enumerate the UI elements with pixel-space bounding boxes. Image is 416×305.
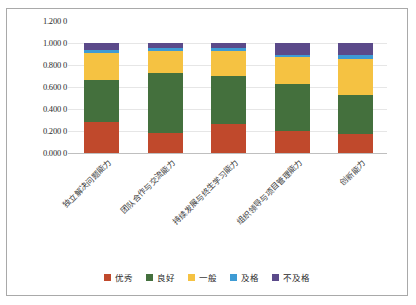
bar-segment-优秀[interactable] <box>275 131 310 153</box>
axis-baseline <box>68 153 387 154</box>
x-axis-tick-label: 组织领导与项目管理能力 <box>234 157 304 227</box>
legend-label: 优秀 <box>115 271 133 283</box>
legend-swatch-icon <box>272 274 279 281</box>
legend-item-2[interactable]: 良好 <box>146 271 175 283</box>
x-axis-tick-label: 持续发展与终生学习能力 <box>170 157 240 227</box>
bar-segment-不及格[interactable] <box>211 43 246 48</box>
y-axis-tick-label: 0.400 0 <box>13 104 67 114</box>
bar-2[interactable] <box>148 43 183 153</box>
y-axis-tick-label: 0.000 0 <box>13 148 67 158</box>
y-axis-tick-label: 1.200 0 <box>13 16 67 26</box>
y-axis-tick-label: 0.800 0 <box>13 60 67 70</box>
bar-5[interactable] <box>338 43 373 153</box>
legend-item-4[interactable]: 及格 <box>230 271 259 283</box>
bar-segment-及格[interactable] <box>275 55 310 57</box>
bar-segment-一般[interactable] <box>338 59 373 95</box>
legend-item-5[interactable]: 不及格 <box>272 271 310 283</box>
legend-swatch-icon <box>104 274 111 281</box>
bar-segment-一般[interactable] <box>148 51 183 72</box>
bar-segment-良好[interactable] <box>275 84 310 131</box>
chart-container: 0.000 00.200 00.400 00.600 00.800 01.000… <box>6 8 408 296</box>
bar-segment-及格[interactable] <box>84 50 119 53</box>
bar-segment-一般[interactable] <box>84 53 119 80</box>
bar-1[interactable] <box>84 43 119 153</box>
bar-segment-优秀[interactable] <box>211 124 246 153</box>
bar-segment-优秀[interactable] <box>148 133 183 153</box>
bar-segment-一般[interactable] <box>211 51 246 76</box>
legend-item-1[interactable]: 优秀 <box>104 271 133 283</box>
bar-segment-及格[interactable] <box>211 48 246 51</box>
x-axis-tick-label: 团队合作与交流能力 <box>118 157 177 216</box>
y-axis-tick-label: 0.200 0 <box>13 126 67 136</box>
bar-segment-及格[interactable] <box>148 48 183 51</box>
bar-segment-及格[interactable] <box>338 55 373 59</box>
y-axis-tick-label: 0.600 0 <box>13 82 67 92</box>
legend-swatch-icon <box>146 274 153 281</box>
legend-item-3[interactable]: 一般 <box>188 271 217 283</box>
bar-segment-优秀[interactable] <box>338 134 373 153</box>
bar-segment-良好[interactable] <box>84 80 119 122</box>
bar-segment-良好[interactable] <box>338 95 373 134</box>
bar-segment-优秀[interactable] <box>84 122 119 153</box>
y-axis: 0.000 00.200 00.400 00.600 00.800 01.000… <box>7 9 67 297</box>
legend-label: 一般 <box>199 271 217 283</box>
bar-segment-不及格[interactable] <box>148 43 183 48</box>
bar-segment-良好[interactable] <box>211 76 246 124</box>
plot-area <box>68 43 387 153</box>
bar-4[interactable] <box>275 43 310 153</box>
legend-label: 不及格 <box>283 271 310 283</box>
legend-label: 及格 <box>241 271 259 283</box>
legend-label: 良好 <box>157 271 175 283</box>
bar-segment-良好[interactable] <box>148 73 183 133</box>
bar-segment-不及格[interactable] <box>275 43 310 55</box>
legend-swatch-icon <box>230 274 237 281</box>
bar-3[interactable] <box>211 43 246 153</box>
legend-swatch-icon <box>188 274 195 281</box>
x-axis-tick-label: 独立解决问题能力 <box>60 157 113 210</box>
chart-legend: 优秀良好一般及格不及格 <box>7 271 407 283</box>
bar-segment-不及格[interactable] <box>338 43 373 55</box>
x-axis-tick-label: 创新能力 <box>337 157 367 187</box>
y-axis-tick-label: 1.000 0 <box>13 38 67 48</box>
bar-segment-不及格[interactable] <box>84 43 119 50</box>
bar-segment-一般[interactable] <box>275 57 310 85</box>
